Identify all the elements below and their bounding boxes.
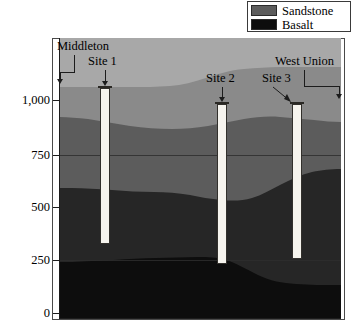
label-middleton: Middleton: [57, 40, 109, 53]
well-cap-site-1: [98, 86, 112, 88]
site-3-leader-arrow: [272, 86, 298, 106]
label-site-2: Site 2: [206, 72, 235, 85]
grid-rule-250: [60, 260, 341, 261]
legend-item-label: Sandstone: [282, 5, 333, 17]
label-west-union: West Union: [275, 55, 334, 68]
middleton-leader-horizontal: [60, 72, 75, 73]
tick-mark-250: [53, 260, 60, 261]
legend: Sandstone Basalt: [247, 1, 351, 32]
label-site-1: Site 1: [88, 55, 117, 68]
tick-label-0: 0: [2, 307, 50, 319]
x-axis-baseline: [59, 318, 341, 319]
tick-label-500: 500: [2, 201, 50, 213]
label-site-3: Site 3: [262, 72, 291, 85]
tick-label-750: 750: [2, 149, 50, 161]
legend-swatch-icon: [251, 19, 277, 30]
west-union-leader-horizontal: [304, 86, 339, 87]
legend-item-sandstone: Sandstone: [251, 4, 347, 17]
site-1-arrowhead-icon: [102, 81, 108, 86]
tick-mark-0: [53, 313, 60, 314]
west-union-leader-vertical: [304, 70, 305, 86]
site-2-arrowhead-icon: [219, 97, 225, 102]
tick-label-250: 250: [2, 254, 50, 266]
tick-mark-500: [53, 207, 60, 208]
well-cap-site-2: [215, 102, 229, 104]
middleton-arrowhead-icon: [57, 79, 63, 84]
middleton-leader-vertical: [74, 55, 75, 72]
tick-label-1000: 1,000: [2, 94, 50, 106]
legend-swatch-icon: [251, 5, 277, 16]
tick-mark-1000: [53, 100, 60, 101]
well-site-1[interactable]: [100, 88, 110, 244]
legend-item-basalt: Basalt: [251, 18, 347, 31]
tick-mark-750: [53, 155, 60, 156]
well-site-3[interactable]: [292, 104, 302, 259]
well-site-2[interactable]: [217, 104, 227, 264]
legend-item-label: Basalt: [282, 19, 313, 31]
west-union-arrowhead-icon: [336, 94, 342, 99]
